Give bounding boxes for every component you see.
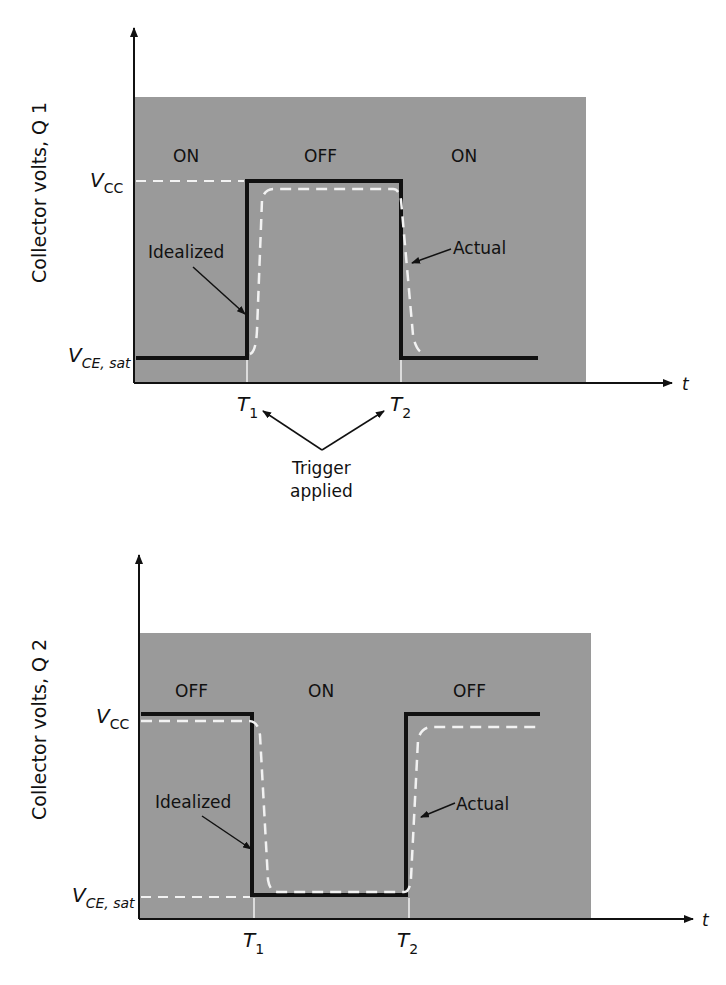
q1-plot-area [134, 97, 586, 382]
q2-t1-label: T1 [243, 928, 264, 957]
q1-actual-label: Actual [453, 238, 506, 258]
trigger-arrow-t1 [263, 411, 322, 450]
q1-vcc-label: VCC [90, 168, 123, 196]
q2-waveform-chart: t Collector volts, Q 2 OFF ON OFF VCC VC… [28, 555, 710, 957]
flip-flop-waveform-diagram: t Collector volts, Q 1 ON OFF ON VCC VCE… [0, 0, 726, 985]
trigger-label-line1: Trigger [291, 458, 351, 478]
q1-x-axis-label: t [682, 374, 690, 394]
q2-actual-label: Actual [456, 794, 509, 814]
q1-t2-label: T2 [390, 392, 411, 421]
q2-vcc-label: VCC [96, 704, 129, 732]
q2-state-1: OFF [175, 681, 208, 701]
q2-vce-sat-label: VCE, sat [72, 883, 135, 911]
q1-y-axis-label: Collector volts, Q 1 [28, 102, 50, 283]
trigger-arrow-t2 [322, 411, 384, 450]
q1-waveform-chart: t Collector volts, Q 1 ON OFF ON VCC VCE… [28, 28, 690, 501]
q2-state-2: ON [308, 681, 334, 701]
q1-state-1: ON [173, 146, 199, 166]
q2-x-axis-label: t [702, 910, 710, 930]
q1-state-2: OFF [304, 146, 337, 166]
q2-t2-label: T2 [397, 928, 418, 957]
q2-y-axis-label: Collector volts, Q 2 [28, 639, 50, 820]
q1-vce-sat-label: VCE, sat [68, 343, 131, 371]
q1-state-3: ON [451, 146, 477, 166]
q2-idealized-label: Idealized [155, 792, 231, 812]
q1-idealized-label: Idealized [148, 242, 224, 262]
trigger-label-line2: applied [290, 481, 353, 501]
q2-plot-area [139, 633, 591, 918]
q1-t1-label: T1 [237, 392, 258, 421]
q2-state-3: OFF [453, 681, 486, 701]
